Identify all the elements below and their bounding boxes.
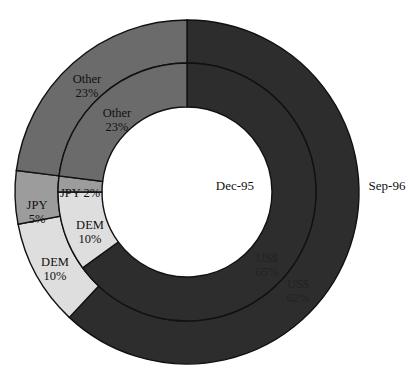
outer-ring-name: Sep-96	[369, 178, 406, 194]
inner-usd-label: US$ 65%	[256, 251, 279, 279]
outer-jpy-label: JPY 5%	[27, 198, 48, 226]
outer-other-label: Other 23%	[73, 72, 101, 100]
outer-other-name: Other	[73, 72, 101, 86]
inner-other-label: Other 23%	[103, 106, 131, 134]
inner-jpy-text: JPY 2%	[60, 186, 100, 200]
outer-usd-name: US$	[287, 277, 310, 291]
outer-dem-name: DEM	[41, 255, 69, 269]
inner-other-name: Other	[103, 106, 131, 120]
outer-usd-label: US$ 62%	[287, 277, 310, 305]
inner-ring-name: Dec-95	[216, 178, 254, 194]
inner-dem-name: DEM	[76, 218, 104, 232]
inner-other-pct: 23%	[103, 120, 131, 134]
inner-usd-name: US$	[256, 251, 279, 265]
inner-dem-pct: 10%	[76, 232, 104, 246]
inner-dem-label: DEM 10%	[76, 218, 104, 246]
outer-jpy-pct: 5%	[27, 212, 48, 226]
outer-dem-label: DEM 10%	[41, 255, 69, 283]
inner-jpy-label: JPY 2%	[60, 186, 100, 200]
outer-other-pct: 23%	[73, 86, 101, 100]
outer-dem-pct: 10%	[41, 269, 69, 283]
outer-jpy-name: JPY	[27, 198, 48, 212]
outer-usd-pct: 62%	[287, 291, 310, 305]
inner-usd-pct: 65%	[256, 265, 279, 279]
